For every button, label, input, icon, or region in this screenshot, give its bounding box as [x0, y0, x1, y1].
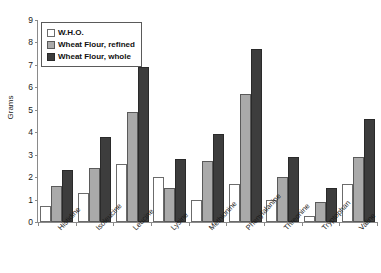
bar-group: [226, 20, 264, 222]
legend-item: Wheat Flour, refined: [47, 39, 135, 50]
bar-group: [151, 20, 189, 222]
legend-label: Wheat Flour, refined: [58, 40, 135, 49]
x-label-cell: Histidine: [37, 224, 75, 273]
legend-label: Wheat Flour, whole: [58, 52, 131, 61]
x-label-cell: Tryptophan: [301, 224, 339, 273]
x-tick-mark: [377, 222, 378, 226]
bar: [89, 168, 100, 222]
y-axis-title: Grams: [6, 78, 15, 138]
bar-group: [264, 20, 302, 222]
bar: [202, 161, 213, 222]
bar: [251, 49, 262, 222]
bar: [51, 186, 62, 222]
legend-swatch: [47, 53, 55, 61]
x-label-cell: Methionine: [188, 224, 226, 273]
bar-group: [302, 20, 340, 222]
bar: [127, 112, 138, 222]
bar: [40, 206, 51, 222]
bar: [315, 202, 326, 222]
x-axis-labels: HistidineIsoleucineLeucineLysineMethioni…: [37, 224, 376, 273]
x-label-cell: Threonine: [263, 224, 301, 273]
bar: [138, 67, 149, 222]
legend-item: Wheat Flour, whole: [47, 51, 135, 62]
bar-chart: Grams 0123456789 HistidineIsoleucineLeuc…: [0, 0, 381, 273]
bar-group: [339, 20, 377, 222]
legend-swatch: [47, 41, 55, 49]
bar-group: [189, 20, 227, 222]
legend-label: W.H.O.: [58, 28, 84, 37]
bar: [164, 188, 175, 222]
x-label-cell: Lysine: [150, 224, 188, 273]
bar: [240, 94, 251, 222]
x-label-cell: Valine: [338, 224, 376, 273]
bar: [153, 177, 164, 222]
x-label-cell: Leucine: [112, 224, 150, 273]
bar: [364, 119, 375, 222]
legend-item: W.H.O.: [47, 27, 135, 38]
bar: [78, 193, 89, 222]
chart-legend: W.H.O.Wheat Flour, refinedWheat Flour, w…: [41, 22, 142, 67]
x-label-cell: Isoleucine: [75, 224, 113, 273]
legend-swatch: [47, 29, 55, 37]
bar: [304, 216, 315, 222]
bar: [353, 157, 364, 222]
bar: [191, 200, 202, 222]
x-label-cell: Phenylalanine: [225, 224, 263, 273]
